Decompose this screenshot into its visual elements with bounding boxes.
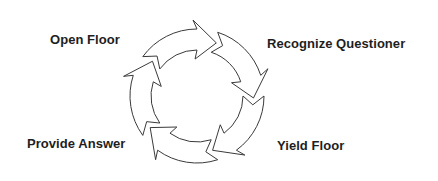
label-recognize-questioner: Recognize Questioner [267,37,405,50]
label-open-floor: Open Floor [50,33,120,46]
curved-arrow-3-icon [213,96,264,155]
curved-arrow-2-icon [211,32,268,98]
label-yield-floor: Yield Floor [277,139,344,152]
curved-arrow-1-icon [143,20,217,69]
curved-arrow-5-icon [124,61,162,135]
curved-arrow-4-icon [150,127,218,163]
circular-arrows-ring [0,0,438,181]
label-provide-answer: Provide Answer [27,137,125,150]
cycle-diagram: Open Floor Recognize Questioner Provide … [0,0,438,181]
